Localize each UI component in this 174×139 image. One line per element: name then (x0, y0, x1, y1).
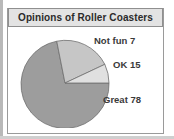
pie-label-ok: OK 15 (113, 59, 140, 70)
pie-svg (20, 38, 110, 128)
chart-title: Opinions of Roller Coasters (18, 12, 153, 23)
pie-label-not-fun: Not fun 7 (94, 35, 135, 46)
scan-edge-bottom (0, 136, 174, 139)
pie-label-great: Great 78 (103, 94, 141, 105)
pie-chart (20, 38, 110, 128)
scan-edge-left (0, 0, 3, 139)
figure-screenshot: Opinions of Roller Coasters Not fun 7 OK… (0, 0, 174, 139)
plot-area: Not fun 7 OK 15 Great 78 (8, 28, 163, 133)
chart-title-bar: Opinions of Roller Coasters (8, 8, 163, 27)
